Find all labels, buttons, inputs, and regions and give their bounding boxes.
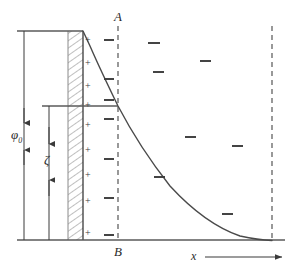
charged-wall-hatch (68, 31, 83, 240)
plus-icon: + (85, 81, 91, 91)
zeta-label: ζ (44, 153, 49, 166)
plus-icon: + (85, 196, 91, 206)
potential-decay-curve (83, 31, 272, 241)
plus-icon: + (85, 170, 91, 180)
plus-icon: + (85, 120, 91, 130)
phi-zero-label: φ0 (11, 128, 22, 145)
plane-B-label: B (114, 245, 122, 258)
figure-container: + + + + + + + + + A B x φ0 ζ (0, 0, 296, 273)
plus-icon: + (85, 58, 91, 68)
double-layer-diagram (0, 0, 296, 273)
plus-icon: + (85, 100, 91, 110)
plus-icon: + (85, 145, 91, 155)
phi-subscript: 0 (18, 136, 22, 145)
plus-icon: + (85, 228, 91, 238)
plus-icon: + (85, 35, 91, 45)
plane-A-label: A (114, 10, 122, 23)
minus-sign-group (104, 40, 243, 235)
x-axis-label: x (191, 250, 196, 262)
